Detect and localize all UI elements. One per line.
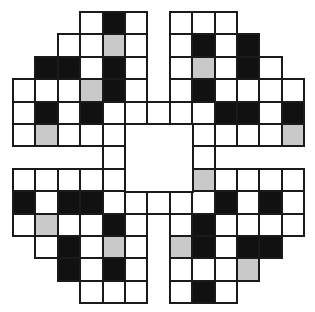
white-cell[interactable] xyxy=(191,11,215,35)
white-cell[interactable] xyxy=(34,235,58,259)
white-cell[interactable] xyxy=(281,190,305,214)
white-cell[interactable] xyxy=(191,123,215,147)
shaded-cell[interactable] xyxy=(34,123,58,147)
white-cell[interactable] xyxy=(57,78,81,102)
white-cell[interactable] xyxy=(57,33,81,57)
shaded-cell[interactable] xyxy=(191,56,215,80)
white-cell[interactable] xyxy=(102,190,126,214)
white-cell[interactable] xyxy=(12,123,36,147)
white-cell[interactable] xyxy=(191,190,215,214)
white-cell[interactable] xyxy=(12,168,36,192)
shaded-cell[interactable] xyxy=(34,213,58,237)
white-cell[interactable] xyxy=(281,213,305,237)
white-cell[interactable] xyxy=(281,168,305,192)
white-cell[interactable] xyxy=(79,56,103,80)
shaded-cell[interactable] xyxy=(281,123,305,147)
white-cell[interactable] xyxy=(102,168,126,192)
white-cell[interactable] xyxy=(146,190,170,214)
white-cell[interactable] xyxy=(102,123,126,147)
white-cell[interactable] xyxy=(124,213,148,237)
white-cell[interactable] xyxy=(79,235,103,259)
white-cell[interactable] xyxy=(124,78,148,102)
white-cell[interactable] xyxy=(102,280,126,304)
shaded-cell[interactable] xyxy=(236,257,260,281)
white-cell[interactable] xyxy=(34,190,58,214)
white-cell[interactable] xyxy=(236,190,260,214)
white-cell[interactable] xyxy=(12,213,36,237)
white-cell[interactable] xyxy=(169,33,193,57)
white-cell[interactable] xyxy=(34,168,58,192)
black-cell xyxy=(236,235,260,259)
white-cell[interactable] xyxy=(214,78,238,102)
white-cell[interactable] xyxy=(191,101,215,125)
white-cell[interactable] xyxy=(102,101,126,125)
white-cell[interactable] xyxy=(146,101,170,125)
white-cell[interactable] xyxy=(169,213,193,237)
white-cell[interactable] xyxy=(214,123,238,147)
white-cell[interactable] xyxy=(169,257,193,281)
white-cell[interactable] xyxy=(169,280,193,304)
white-cell[interactable] xyxy=(214,168,238,192)
white-cell[interactable] xyxy=(79,123,103,147)
white-cell[interactable] xyxy=(214,280,238,304)
center-void xyxy=(124,123,194,193)
white-cell[interactable] xyxy=(124,101,148,125)
black-cell xyxy=(214,101,238,125)
white-cell[interactable] xyxy=(34,78,58,102)
white-cell[interactable] xyxy=(12,78,36,102)
white-cell[interactable] xyxy=(102,145,126,169)
shaded-cell[interactable] xyxy=(102,235,126,259)
white-cell[interactable] xyxy=(214,11,238,35)
white-cell[interactable] xyxy=(191,145,215,169)
white-cell[interactable] xyxy=(124,11,148,35)
black-cell xyxy=(191,213,215,237)
white-cell[interactable] xyxy=(79,213,103,237)
white-cell[interactable] xyxy=(57,101,81,125)
white-cell[interactable] xyxy=(258,56,282,80)
white-cell[interactable] xyxy=(191,257,215,281)
white-cell[interactable] xyxy=(236,168,260,192)
white-cell[interactable] xyxy=(236,123,260,147)
white-cell[interactable] xyxy=(124,33,148,57)
white-cell[interactable] xyxy=(124,190,148,214)
white-cell[interactable] xyxy=(169,11,193,35)
white-cell[interactable] xyxy=(214,257,238,281)
white-cell[interactable] xyxy=(169,56,193,80)
white-cell[interactable] xyxy=(79,280,103,304)
white-cell[interactable] xyxy=(124,257,148,281)
white-cell[interactable] xyxy=(214,213,238,237)
white-cell[interactable] xyxy=(214,56,238,80)
white-cell[interactable] xyxy=(124,280,148,304)
white-cell[interactable] xyxy=(258,78,282,102)
shaded-cell[interactable] xyxy=(169,235,193,259)
white-cell[interactable] xyxy=(57,123,81,147)
shaded-cell[interactable] xyxy=(79,78,103,102)
black-cell xyxy=(57,190,81,214)
white-cell[interactable] xyxy=(79,11,103,35)
black-cell xyxy=(236,101,260,125)
white-cell[interactable] xyxy=(124,56,148,80)
white-cell[interactable] xyxy=(236,213,260,237)
shaded-cell[interactable] xyxy=(191,168,215,192)
white-cell[interactable] xyxy=(12,101,36,125)
white-cell[interactable] xyxy=(258,101,282,125)
white-cell[interactable] xyxy=(169,190,193,214)
white-cell[interactable] xyxy=(169,78,193,102)
white-cell[interactable] xyxy=(79,168,103,192)
white-cell[interactable] xyxy=(281,78,305,102)
black-cell xyxy=(102,257,126,281)
shaded-cell[interactable] xyxy=(102,33,126,57)
black-cell xyxy=(12,190,36,214)
white-cell[interactable] xyxy=(258,123,282,147)
white-cell[interactable] xyxy=(214,33,238,57)
white-cell[interactable] xyxy=(258,213,282,237)
white-cell[interactable] xyxy=(124,235,148,259)
white-cell[interactable] xyxy=(236,78,260,102)
white-cell[interactable] xyxy=(79,33,103,57)
white-cell[interactable] xyxy=(57,168,81,192)
white-cell[interactable] xyxy=(169,101,193,125)
white-cell[interactable] xyxy=(214,235,238,259)
white-cell[interactable] xyxy=(258,168,282,192)
white-cell[interactable] xyxy=(57,213,81,237)
white-cell[interactable] xyxy=(79,257,103,281)
